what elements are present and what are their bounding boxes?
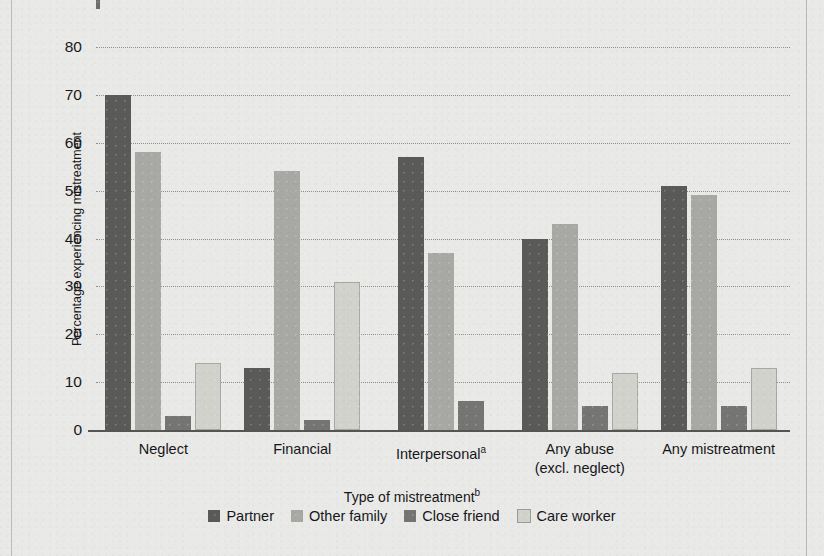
y-tick-label-70: 70 [40,86,82,104]
x-axis-title: Type of mistreatmentb [0,487,824,505]
figure-bar-chart: 01020304050607080 Percentage experiencin… [0,0,824,556]
bar [304,420,330,430]
legend-swatch-icon [291,510,303,522]
bar [165,416,191,430]
bar [661,186,687,430]
bar [691,195,717,430]
y-tick-label-0: 0 [40,421,82,439]
bar [458,401,484,430]
bar [582,406,608,430]
x-category-label: Any mistreatment [619,440,819,459]
legend-item: Care worker [517,508,616,524]
bar [612,373,638,430]
legend-label: Care worker [537,508,616,524]
legend-item: Other family [291,508,387,524]
bar-group [244,47,360,430]
y-axis-title: Percentage experiencing mistreatment [70,131,84,345]
page-rule-right [806,0,807,556]
chart-legend: PartnerOther familyClose friendCare work… [0,508,824,524]
plot-area: Percentage experiencing mistreatment [96,47,790,430]
bar [522,239,548,431]
x-axis-line [88,430,790,432]
bar-group [522,47,638,430]
bar [195,363,221,430]
legend-label: Close friend [422,508,499,524]
bar-group [105,47,221,430]
legend-swatch-icon [517,509,531,523]
bar [428,253,454,430]
bar [274,171,300,430]
bar [721,406,747,430]
cropped-title-glyph [96,0,100,9]
bar [244,368,270,430]
legend-item: Close friend [404,508,499,524]
legend-swatch-icon [404,510,416,522]
y-tick-label-10: 10 [40,373,82,391]
bar [135,152,161,430]
bar [334,282,360,430]
bar [105,95,131,430]
bar [398,157,424,430]
bar-group [661,47,777,430]
legend-item: Partner [208,508,274,524]
bar [552,224,578,430]
bar-group [398,47,484,430]
page-rule-left [11,0,12,556]
legend-label: Other family [309,508,387,524]
bar [751,368,777,430]
legend-swatch-icon [208,510,220,522]
legend-label: Partner [226,508,274,524]
y-tick-label-80: 80 [40,38,82,56]
